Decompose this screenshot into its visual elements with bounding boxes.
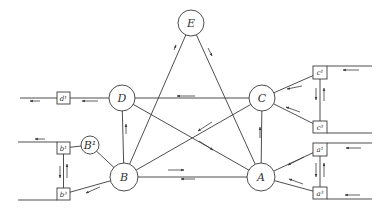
box-c3: c³	[313, 121, 327, 133]
arrow-icon	[288, 157, 304, 165]
boxes-layer: d¹b¹b³c¹c³a¹a³	[57, 66, 327, 200]
box-label: b³	[60, 191, 67, 199]
box-c1: c¹	[313, 66, 327, 79]
box-d1: d¹	[57, 92, 70, 104]
node-label: A	[256, 171, 265, 184]
box-label: d¹	[60, 95, 67, 103]
box-a3: a³	[313, 187, 327, 199]
node-E: E	[178, 10, 204, 36]
box-label: a³	[317, 190, 324, 198]
node-D: D	[109, 85, 135, 111]
network-diagram: d¹b¹b³c¹c³a¹a³ EDCBAB¹	[0, 0, 389, 215]
box-label: c¹	[317, 69, 324, 77]
edge-B-C	[124, 98, 262, 177]
node-label: C	[258, 92, 267, 105]
node-label: E	[186, 17, 195, 30]
node-B: B	[110, 163, 138, 191]
edges-layer	[64, 23, 321, 194]
node-A: A	[247, 163, 275, 191]
node-label: B	[119, 171, 128, 184]
arrow-icon	[208, 48, 212, 56]
diagram-canvas: d¹b¹b³c¹c³a¹a³ EDCBAB¹	[0, 0, 389, 215]
node-B1: B¹	[81, 136, 99, 154]
arrow-icon	[174, 45, 176, 50]
box-label: c³	[317, 124, 324, 132]
box-a1: a¹	[313, 143, 327, 156]
arrow-icon	[198, 122, 212, 131]
arrow-icon	[86, 187, 100, 193]
node-C: C	[249, 85, 275, 111]
box-b3: b³	[57, 188, 70, 200]
edge-D-A	[122, 98, 261, 177]
node-label: B¹	[83, 139, 97, 152]
box-label: a¹	[317, 146, 324, 154]
direction-arrows-layer	[30, 45, 361, 195]
arrow-icon	[289, 179, 303, 184]
node-label: D	[117, 92, 127, 105]
box-label: b¹	[60, 145, 67, 153]
box-b1: b¹	[57, 142, 70, 154]
arrow-icon	[199, 141, 213, 150]
